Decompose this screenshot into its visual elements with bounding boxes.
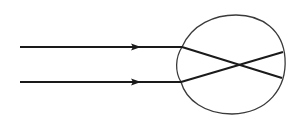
eye-ray-diagram bbox=[0, 0, 301, 123]
